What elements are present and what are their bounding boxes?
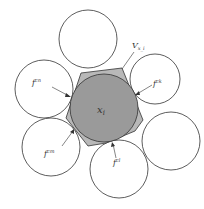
neighbor-circle-lower-right: [142, 112, 200, 170]
voronoi-contact-diagram: xi Vx_i fcn fck fcm fcl: [0, 0, 204, 209]
center-particle: [70, 74, 138, 142]
neighbor-circle-left: [15, 60, 73, 118]
cell-label: Vx_i: [132, 41, 145, 52]
neighbor-circle-top: [59, 10, 117, 68]
neighbor-circle-lower-left: [22, 118, 80, 176]
neighbor-circle-bottom: [90, 140, 148, 198]
cell-leader-line: [122, 52, 134, 69]
